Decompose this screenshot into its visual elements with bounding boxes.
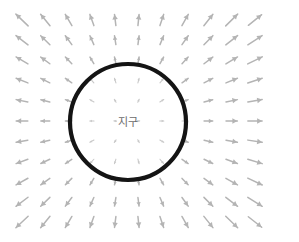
field-arrow (41, 57, 50, 64)
arrow-head (114, 120, 116, 122)
field-arrow (90, 100, 94, 102)
field-arrow (204, 78, 213, 83)
field-arrow (160, 57, 164, 64)
field-arrow (16, 216, 28, 228)
field-arrow (90, 159, 94, 163)
field-arrow (137, 140, 139, 143)
field-arrow (90, 178, 94, 184)
field-arrow (159, 217, 164, 228)
field-arrow (248, 139, 262, 144)
field-arrow (41, 98, 50, 102)
field-arrow (41, 159, 50, 164)
field-arrow (65, 216, 72, 227)
field-arrow (160, 78, 164, 83)
field-arrow (137, 78, 139, 83)
field-arrow (160, 100, 164, 102)
field-arrow (248, 98, 262, 103)
field-arrow (89, 217, 94, 228)
field-arrow (248, 178, 263, 185)
field-arrow (182, 159, 188, 163)
field-arrow (248, 36, 262, 45)
field-arrow (226, 197, 238, 206)
field-arrow (204, 178, 213, 185)
arrow-head (136, 222, 141, 227)
gravitational-field-diagram: 지구 (0, 0, 299, 242)
field-arrow (182, 36, 188, 45)
field-arrow (182, 178, 188, 184)
field-arrow (90, 36, 94, 45)
field-arrow (89, 14, 94, 25)
field-arrow (113, 36, 117, 45)
field-arrow (90, 120, 94, 122)
field-arrow (41, 78, 50, 83)
field-arrow (204, 36, 213, 45)
field-arrow (226, 14, 238, 26)
field-arrow (204, 197, 213, 206)
field-arrow (90, 140, 94, 142)
field-arrow (226, 178, 238, 185)
field-arrow (41, 119, 50, 123)
field-arrow (41, 197, 50, 206)
field-arrow (204, 14, 213, 26)
field-arrow (16, 14, 28, 26)
earth-label: 지구 (118, 117, 139, 128)
field-arrow (65, 159, 71, 163)
field-arrow (90, 198, 94, 207)
arrow-head (16, 118, 21, 124)
field-arrow (16, 98, 28, 103)
field-arrow (41, 14, 50, 26)
arrow-head (232, 98, 237, 103)
field-arrow (204, 119, 213, 123)
field-arrow (112, 14, 117, 25)
field-arrow (182, 78, 188, 82)
field-arrow (41, 216, 50, 227)
field-arrow (160, 198, 164, 207)
field-arrow (226, 78, 237, 83)
field-arrow (113, 198, 117, 207)
field-arrow (41, 139, 50, 143)
field-arrow (204, 99, 213, 103)
field-arrow (226, 216, 238, 228)
field-arrow (226, 118, 237, 124)
arrow-head (209, 119, 213, 123)
field-arrow (114, 159, 116, 163)
field-arrow (113, 57, 116, 64)
arrow-head (136, 14, 141, 19)
field-arrow (65, 14, 72, 25)
arrow-head (41, 119, 45, 123)
field-arrow (41, 36, 50, 45)
field-arrow (114, 120, 117, 122)
arrow-head (257, 118, 262, 124)
field-arrow (204, 159, 213, 163)
field-arrow (65, 36, 71, 45)
field-arrow (65, 197, 71, 206)
field-arrow (182, 197, 188, 206)
field-arrow (65, 99, 71, 102)
field-arrow (226, 98, 237, 103)
field-arrow (160, 120, 164, 122)
field-arrow (137, 99, 139, 102)
field-arrow (182, 57, 188, 64)
field-arrow (16, 36, 28, 45)
field-arrow (248, 15, 261, 26)
field-arrow (248, 197, 262, 206)
field-arrow (16, 197, 28, 206)
field-arrow (248, 118, 262, 124)
field-arrow (112, 217, 117, 228)
field-arrow (90, 57, 94, 64)
field-arrow (159, 14, 164, 25)
field-arrow (182, 14, 188, 25)
field-arrow (204, 139, 213, 143)
arrow-head (232, 118, 237, 124)
field-arrow (65, 78, 71, 82)
field-arrow (136, 36, 140, 45)
field-arrow (16, 118, 28, 124)
field-arrow (16, 57, 28, 64)
field-arrow (16, 139, 28, 144)
field-arrow (226, 36, 238, 45)
arrow-head (65, 119, 68, 122)
field-arrow (41, 178, 50, 185)
field-arrow (16, 78, 28, 83)
field-arrow (248, 77, 262, 83)
field-arrow (136, 198, 140, 207)
